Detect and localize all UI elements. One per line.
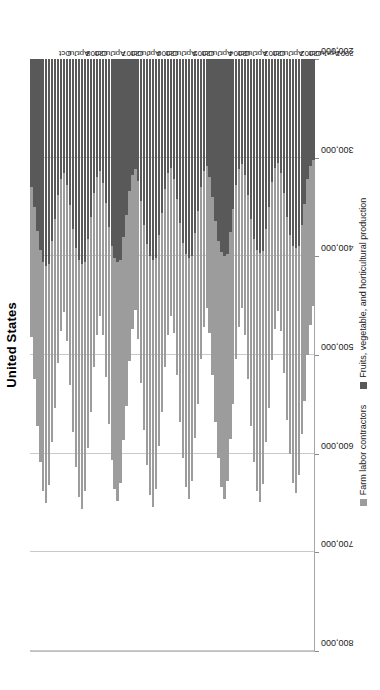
bar-segment-fruits-vegetable-horticultural <box>33 59 35 207</box>
bar-row <box>66 59 68 651</box>
bar-segment-fruits-vegetable-horticultural <box>223 59 225 256</box>
bar-segment-farm-labor-contractors <box>262 251 264 484</box>
bar-segment-farm-labor-contractors <box>149 256 151 495</box>
bar-segment-fruits-vegetable-horticultural <box>244 59 246 175</box>
bar-segment-fruits-vegetable-horticultural <box>39 59 41 250</box>
bar-segment-fruits-vegetable-horticultural <box>143 59 145 225</box>
legend-item[interactable]: Fruits, vegetable, and horticultural pro… <box>358 198 368 389</box>
bar-row <box>206 59 208 651</box>
bar-segment-farm-labor-contractors <box>256 250 258 491</box>
bar-row <box>72 59 74 651</box>
bar-segment-fruits-vegetable-horticultural <box>208 59 210 177</box>
bar-row <box>247 59 249 651</box>
bar-row <box>253 59 255 651</box>
bar-segment-farm-labor-contractors <box>66 185 68 341</box>
bar-segment-fruits-vegetable-horticultural <box>42 59 44 262</box>
bar-row <box>295 59 297 651</box>
bar-segment-farm-labor-contractors <box>179 223 181 422</box>
bar-segment-fruits-vegetable-horticultural <box>152 59 154 260</box>
bar-segment-farm-labor-contractors <box>253 239 255 462</box>
bar-segment-fruits-vegetable-horticultural <box>217 59 219 241</box>
bar-segment-farm-labor-contractors <box>280 173 282 331</box>
bar-row <box>143 59 145 651</box>
bar-segment-farm-labor-contractors <box>108 227 110 424</box>
bar-row <box>283 59 285 651</box>
bar-segment-fruits-vegetable-horticultural <box>203 59 205 171</box>
bar-row <box>306 59 308 651</box>
bar-row <box>197 59 199 651</box>
bar-row <box>54 59 56 651</box>
bar-row <box>93 59 95 651</box>
bar-segment-farm-labor-contractors <box>241 164 243 308</box>
bar-segment-farm-labor-contractors <box>102 183 104 335</box>
bar-row <box>152 59 154 651</box>
bar-row <box>280 59 282 651</box>
bar-row <box>262 59 264 651</box>
category-axis-label: Apr <box>291 49 303 58</box>
bar-segment-fruits-vegetable-horticultural <box>292 59 294 246</box>
legend-label: Farm labor contractors <box>358 405 368 496</box>
axis-tick <box>315 256 319 257</box>
bar-row <box>140 59 142 651</box>
bar-row <box>128 59 130 651</box>
bar-segment-fruits-vegetable-horticultural <box>220 59 222 252</box>
bar-segment-fruits-vegetable-horticultural <box>105 59 107 203</box>
category-axis-label: Apr <box>113 49 125 58</box>
bar-segment-fruits-vegetable-horticultural <box>116 59 118 262</box>
bar-segment-fruits-vegetable-horticultural <box>298 59 300 246</box>
bar-segment-farm-labor-contractors <box>152 260 154 507</box>
bar-row <box>182 59 184 651</box>
bar-row <box>48 59 50 651</box>
bar-segment-fruits-vegetable-horticultural <box>149 59 151 256</box>
bar-row <box>84 59 86 651</box>
bar-segment-farm-labor-contractors <box>286 217 288 420</box>
bar-segment-farm-labor-contractors <box>182 243 184 458</box>
bar-segment-farm-labor-contractors <box>211 197 213 375</box>
bar-row <box>134 59 136 651</box>
bar-segment-fruits-vegetable-horticultural <box>194 59 196 233</box>
bar-segment-farm-labor-contractors <box>131 175 133 329</box>
bar-segment-farm-labor-contractors <box>72 229 74 432</box>
bar-row <box>39 59 41 651</box>
bar-segment-farm-labor-contractors <box>170 168 172 316</box>
bar-segment-farm-labor-contractors <box>235 185 237 359</box>
page-title: United States <box>4 0 19 690</box>
bar-segment-farm-labor-contractors <box>69 205 71 385</box>
bar-row <box>268 59 270 651</box>
bar-row <box>277 59 279 651</box>
bar-segment-fruits-vegetable-horticultural <box>200 59 202 187</box>
bar-segment-fruits-vegetable-horticultural <box>66 59 68 185</box>
plot-area <box>30 60 315 652</box>
bar-segment-fruits-vegetable-horticultural <box>164 59 166 189</box>
bar-row <box>241 59 243 651</box>
bar-row <box>217 59 219 651</box>
bar-row <box>158 59 160 651</box>
bar-segment-fruits-vegetable-horticultural <box>60 59 62 179</box>
chart-canvas: United States 200,000300,000400,000500,0… <box>0 0 380 690</box>
bar-segment-farm-labor-contractors <box>232 209 234 404</box>
legend-item[interactable]: Farm labor contractors <box>358 405 368 507</box>
axis-tick-label: 500,000 <box>321 342 354 352</box>
bar-row <box>170 59 172 651</box>
bar-segment-farm-labor-contractors <box>119 260 121 483</box>
axis-tick-label: 800,000 <box>321 638 354 648</box>
bar-series-group <box>30 60 314 651</box>
bar-row <box>78 59 80 651</box>
bar-segment-fruits-vegetable-horticultural <box>81 59 83 264</box>
bar-row <box>191 59 193 651</box>
bar-row <box>146 59 148 651</box>
bar-segment-fruits-vegetable-horticultural <box>182 59 184 243</box>
bar-segment-farm-labor-contractors <box>146 244 148 465</box>
bar-row <box>45 59 47 651</box>
bar-segment-farm-labor-contractors <box>191 256 193 481</box>
bar-row <box>256 59 258 651</box>
bar-row <box>235 59 237 651</box>
bar-segment-farm-labor-contractors <box>274 168 276 330</box>
bar-segment-farm-labor-contractors <box>81 264 83 509</box>
bar-row <box>99 59 101 651</box>
legend-label: Fruits, vegetable, and horticultural pro… <box>358 198 368 378</box>
category-axis-label: Apr <box>184 49 196 58</box>
bar-segment-farm-labor-contractors <box>140 201 142 383</box>
bar-segment-farm-labor-contractors <box>200 187 202 359</box>
bar-row <box>250 59 252 651</box>
